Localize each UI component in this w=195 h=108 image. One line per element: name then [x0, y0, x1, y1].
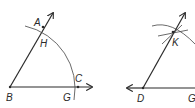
point-K: [172, 31, 175, 34]
label-G: G: [63, 92, 71, 103]
label-A: A: [33, 17, 41, 28]
point-A: [42, 26, 45, 29]
point-C: [77, 86, 80, 89]
right-figure: K D G: [127, 13, 195, 104]
left-figure: A H B G C: [6, 13, 92, 103]
point-B: [9, 86, 11, 88]
arc-HG: [25, 26, 75, 100]
label-H: H: [40, 38, 48, 49]
ray-BA: [10, 13, 53, 87]
point-D: [142, 87, 144, 89]
label-C: C: [75, 73, 83, 84]
label-G-right: G: [188, 93, 195, 104]
label-D: D: [137, 93, 144, 104]
label-B: B: [6, 92, 13, 103]
label-K: K: [172, 37, 180, 48]
construction-diagram: A H B G C K D G: [0, 0, 195, 108]
ray-DK: [143, 13, 185, 88]
